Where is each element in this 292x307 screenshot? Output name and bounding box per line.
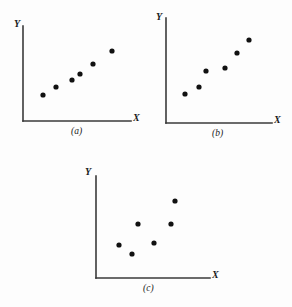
data-point bbox=[129, 251, 134, 256]
data-points-c bbox=[116, 198, 177, 256]
data-point bbox=[135, 221, 140, 226]
data-point bbox=[151, 240, 156, 245]
figure-sheet: Y X (a) Y X (b) Y X (c) bbox=[0, 0, 292, 307]
x-axis-label-c: X bbox=[212, 270, 219, 280]
scatter-panel-c: Y X (c) bbox=[0, 0, 292, 307]
data-point bbox=[168, 221, 173, 226]
data-point bbox=[116, 242, 121, 247]
y-axis-label-c: Y bbox=[85, 167, 91, 177]
data-point bbox=[172, 198, 177, 203]
panel-caption-c: (c) bbox=[143, 284, 154, 294]
scatter-plot-c bbox=[0, 0, 292, 307]
